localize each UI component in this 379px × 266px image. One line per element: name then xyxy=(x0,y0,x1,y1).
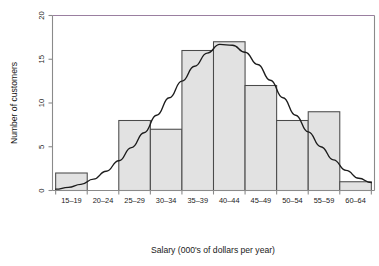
bar-25-29 xyxy=(119,121,151,191)
x-tick-label: 25–29 xyxy=(124,196,145,205)
x-tick-label: 60–64 xyxy=(345,196,366,205)
y-axis-ticks: 05101520 xyxy=(37,11,53,192)
x-axis-tick-labels: 15–1920–2425–2930–3435–3940–4445–4950–54… xyxy=(61,196,366,205)
y-tick-label: 0 xyxy=(37,188,46,192)
y-tick-label: 20 xyxy=(37,11,46,19)
x-tick-label: 45–49 xyxy=(251,196,272,205)
x-axis-title: Salary (000's of dollars per year) xyxy=(151,245,275,255)
y-axis-title: Number of customers xyxy=(9,62,19,144)
y-tick-label: 10 xyxy=(37,99,46,107)
y-tick-label: 5 xyxy=(37,145,46,149)
bar-30-34 xyxy=(150,129,182,190)
x-tick-label: 40–44 xyxy=(219,196,240,205)
x-tick-label: 15–19 xyxy=(61,196,82,205)
bar-40-44 xyxy=(214,42,246,191)
x-tick-label: 50–54 xyxy=(282,196,303,205)
x-axis-ticks xyxy=(56,191,372,195)
x-tick-label: 55–59 xyxy=(314,196,335,205)
chart-canvas: 05101520 15–1920–2425–2930–3435–3940–444… xyxy=(0,0,379,266)
bar-35-39 xyxy=(182,51,214,191)
bar-45-49 xyxy=(245,86,277,191)
bar-60-64 xyxy=(340,182,372,191)
x-tick-label: 20–24 xyxy=(93,196,114,205)
y-tick-label: 15 xyxy=(37,55,46,63)
bar-55-59 xyxy=(308,112,340,191)
bar-50-54 xyxy=(277,121,309,191)
bar-15-19 xyxy=(56,173,88,191)
histogram-figure: 05101520 15–1920–2425–2930–3435–3940–444… xyxy=(0,0,379,266)
x-tick-label: 30–34 xyxy=(156,196,177,205)
x-tick-label: 35–39 xyxy=(187,196,208,205)
bars-group xyxy=(56,42,372,191)
